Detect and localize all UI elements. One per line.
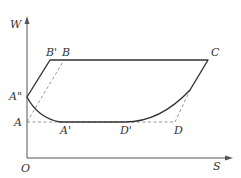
point-c-label: C: [211, 46, 220, 59]
dashed-path: [27, 60, 190, 122]
origin-label: O: [21, 162, 30, 175]
point-b-prime-label: B': [45, 46, 57, 59]
x-axis-label: S: [213, 160, 221, 173]
x-axis-arrow-icon: [225, 156, 233, 161]
y-axis-arrow-icon: [25, 16, 30, 24]
y-axis-label: W: [10, 18, 23, 31]
point-a-prime-label: A': [59, 124, 71, 137]
point-b-label: B: [61, 46, 70, 59]
point-a-label: A: [13, 116, 22, 129]
solid-path: [27, 60, 208, 122]
w-s-diagram: W S O B' B C A" A A' D' D: [0, 0, 241, 178]
axes: [25, 16, 234, 161]
point-d-label: D: [173, 124, 183, 137]
point-d-prime-label: D': [119, 124, 132, 137]
point-a-double-prime-label: A": [8, 90, 22, 103]
